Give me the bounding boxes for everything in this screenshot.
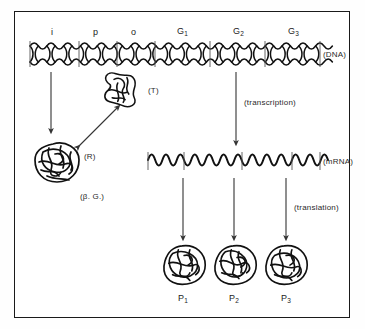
gene-label-p: p: [93, 27, 98, 37]
protein-p2-graphic: [215, 246, 256, 285]
diagram-vectors: [0, 0, 365, 329]
protein-p3-graphic: [266, 246, 307, 285]
dna-row-label: (DNA): [323, 50, 346, 59]
repressor-molecule-graphic: [35, 143, 79, 182]
gene-label-i: i: [51, 27, 53, 37]
gene-label-g2: G2: [233, 26, 244, 36]
dna-strand-graphic: [30, 41, 332, 67]
protein-label-p1: P1: [178, 293, 188, 303]
translation-label: (translation): [294, 203, 339, 212]
protein-p1-graphic: [164, 246, 205, 285]
protein-label-p3: P3: [281, 293, 291, 303]
repressor-label: (R): [84, 152, 96, 161]
protein-label-p2: P2: [229, 293, 239, 303]
gene-label-o: o: [131, 27, 136, 37]
mrna-row-label: (mRNA): [323, 157, 353, 166]
mrna-strand-graphic: [148, 152, 328, 170]
inducer-label: (T): [148, 86, 159, 95]
gene-label-g3: G3: [288, 26, 299, 36]
transcription-label: (transcription): [244, 98, 296, 107]
gene-label-g1: G1: [177, 26, 188, 36]
beta-galactosidase-label: (β. G.): [80, 192, 104, 201]
gene-expression-diagram: i p o G1 G2 G3 (DNA) (T) (R) (β. G.) (tr…: [0, 0, 365, 329]
inducer-molecule-graphic: [105, 73, 136, 107]
arrow-repressor-inducer: [78, 107, 118, 147]
